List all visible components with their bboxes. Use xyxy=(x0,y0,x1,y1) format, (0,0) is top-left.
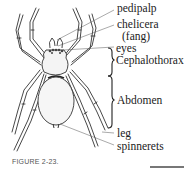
label-pedipalp: pedipalp xyxy=(117,3,157,15)
divider-rule xyxy=(150,166,184,168)
label-spinnerets: spinnerets xyxy=(117,141,164,153)
label-fang: (fang) xyxy=(122,31,150,43)
figure-caption: FIGURE 2-23. xyxy=(12,158,59,165)
cephalothorax-brace xyxy=(108,48,114,76)
label-chelicera: chelicera xyxy=(117,19,159,31)
label-cephalothorax: Cephalothorax xyxy=(116,55,184,67)
label-leg: leg xyxy=(117,128,131,140)
abdomen-shape xyxy=(38,77,74,125)
label-abdomen: Abdomen xyxy=(117,95,162,107)
label-eyes: eyes xyxy=(116,43,136,55)
cephalothorax-shape xyxy=(42,50,68,75)
abdomen-brace xyxy=(108,76,114,128)
